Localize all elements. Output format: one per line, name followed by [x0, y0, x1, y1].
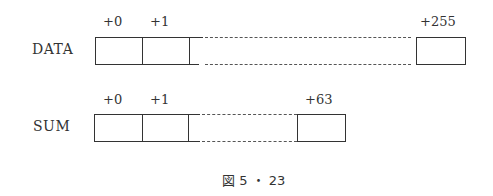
- figure-caption: 図 5 ・ 23: [222, 170, 285, 189]
- data-gap-bottom-dashes: [205, 64, 411, 65]
- sum-offset-1: +1: [150, 92, 169, 107]
- sum-gap-top-dashes: [202, 114, 297, 115]
- sum-cell-0: [94, 114, 143, 142]
- sum-gap-bottom-stub: [188, 141, 200, 142]
- data-cell-1: [142, 37, 190, 65]
- data-offset-1: +1: [150, 14, 169, 29]
- sum-offset-last: +63: [305, 92, 332, 107]
- sum-gap-bottom-dashes: [202, 141, 297, 142]
- data-gap-top-dashes: [205, 37, 411, 38]
- data-gap-bottom-stub: [189, 64, 199, 65]
- sum-array-label: SUM: [33, 118, 70, 134]
- data-cell-0: [95, 37, 143, 65]
- data-offset-last: +255: [420, 14, 456, 29]
- sum-cell-1: [142, 114, 189, 142]
- sum-cell-last: [297, 114, 346, 142]
- sum-gap-top-stub: [188, 114, 200, 115]
- data-gap-top-stub: [189, 37, 203, 38]
- data-cell-last: [416, 37, 466, 65]
- sum-offset-0: +0: [103, 92, 122, 107]
- data-array-label: DATA: [32, 41, 73, 57]
- data-offset-0: +0: [103, 14, 122, 29]
